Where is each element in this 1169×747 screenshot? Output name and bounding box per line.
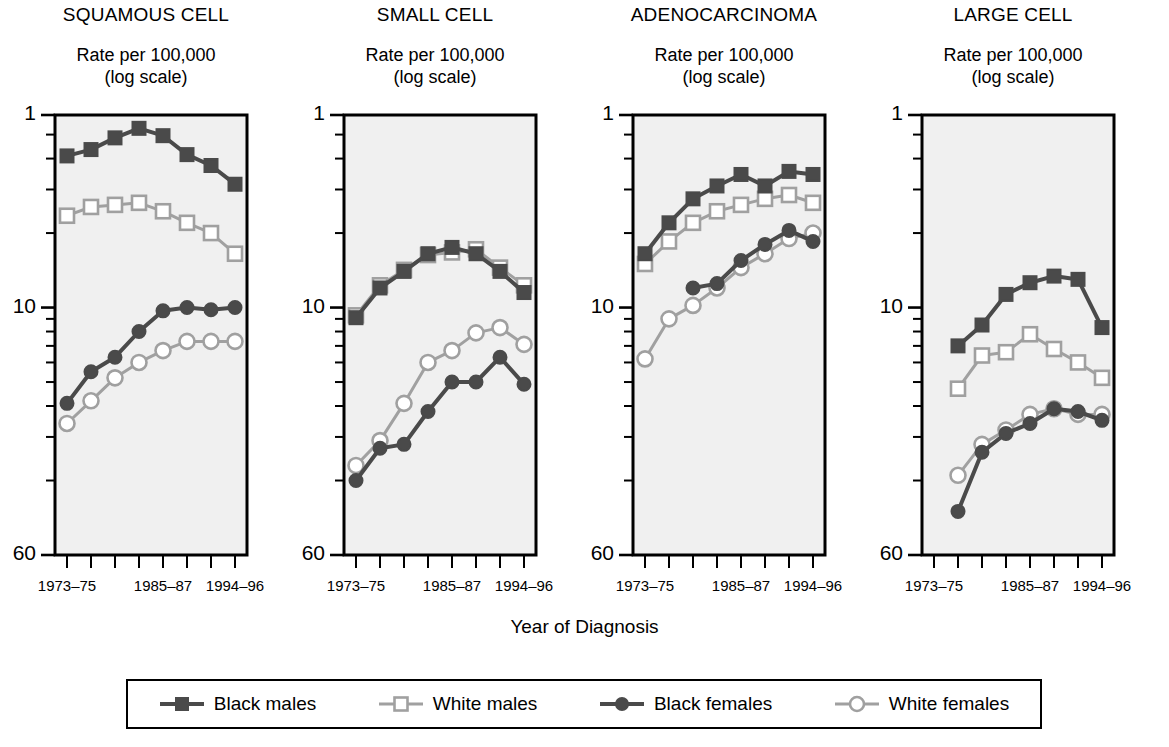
x-tick-label: 1994–96 [1059, 577, 1145, 594]
y-tick-label: 60 [880, 541, 903, 565]
plot-area [289, 0, 581, 600]
y-tick-label: 1 [602, 101, 614, 125]
x-tick-label: 1973–75 [24, 577, 110, 594]
lung-cancer-incidence-figure: SQUAMOUS CELLRate per 100,000(log scale)… [0, 0, 1169, 747]
legend-label: Black females [654, 693, 772, 715]
y-tick-label: 60 [302, 541, 325, 565]
filled-circle-icon [599, 693, 645, 715]
y-tick-label: 10 [302, 294, 325, 318]
y-tick-label: 1 [24, 101, 36, 125]
x-tick-label: 1973–75 [891, 577, 977, 594]
y-tick-label: 10 [591, 294, 614, 318]
x-axis-label: Year of Diagnosis [0, 616, 1169, 638]
legend-item-white-females: White females [834, 693, 1009, 715]
panel-squamous-cell: SQUAMOUS CELLRate per 100,000(log scale)… [0, 0, 292, 600]
y-tick-label: 1 [891, 101, 903, 125]
x-tick-label: 1994–96 [770, 577, 856, 594]
x-tick-label: 1973–75 [602, 577, 688, 594]
y-tick-label: 60 [591, 541, 614, 565]
legend-item-black-males: Black males [159, 693, 316, 715]
panel-adenocarcinoma: ADENOCARCINOMARate per 100,000(log scale… [578, 0, 870, 600]
y-tick-label: 10 [880, 294, 903, 318]
panel-large-cell: LARGE CELLRate per 100,000(log scale)601… [867, 0, 1159, 600]
x-tick-label: 1994–96 [481, 577, 567, 594]
legend-item-black-females: Black females [599, 693, 772, 715]
open-square-icon [378, 693, 424, 715]
x-tick-label: 1994–96 [192, 577, 278, 594]
filled-square-icon [159, 693, 205, 715]
legend-item-white-males: White males [378, 693, 538, 715]
plot-area [0, 0, 292, 600]
y-tick-label: 1 [313, 101, 325, 125]
plot-area [867, 0, 1159, 600]
legend: Black malesWhite malesBlack femalesWhite… [126, 679, 1042, 729]
legend-label: White males [433, 693, 538, 715]
y-tick-label: 10 [13, 294, 36, 318]
y-tick-label: 60 [13, 541, 36, 565]
x-tick-label: 1973–75 [313, 577, 399, 594]
panel-small-cell: SMALL CELLRate per 100,000(log scale)601… [289, 0, 581, 600]
legend-label: White females [889, 693, 1009, 715]
open-circle-icon [834, 693, 880, 715]
plot-area [578, 0, 870, 600]
legend-label: Black males [214, 693, 316, 715]
